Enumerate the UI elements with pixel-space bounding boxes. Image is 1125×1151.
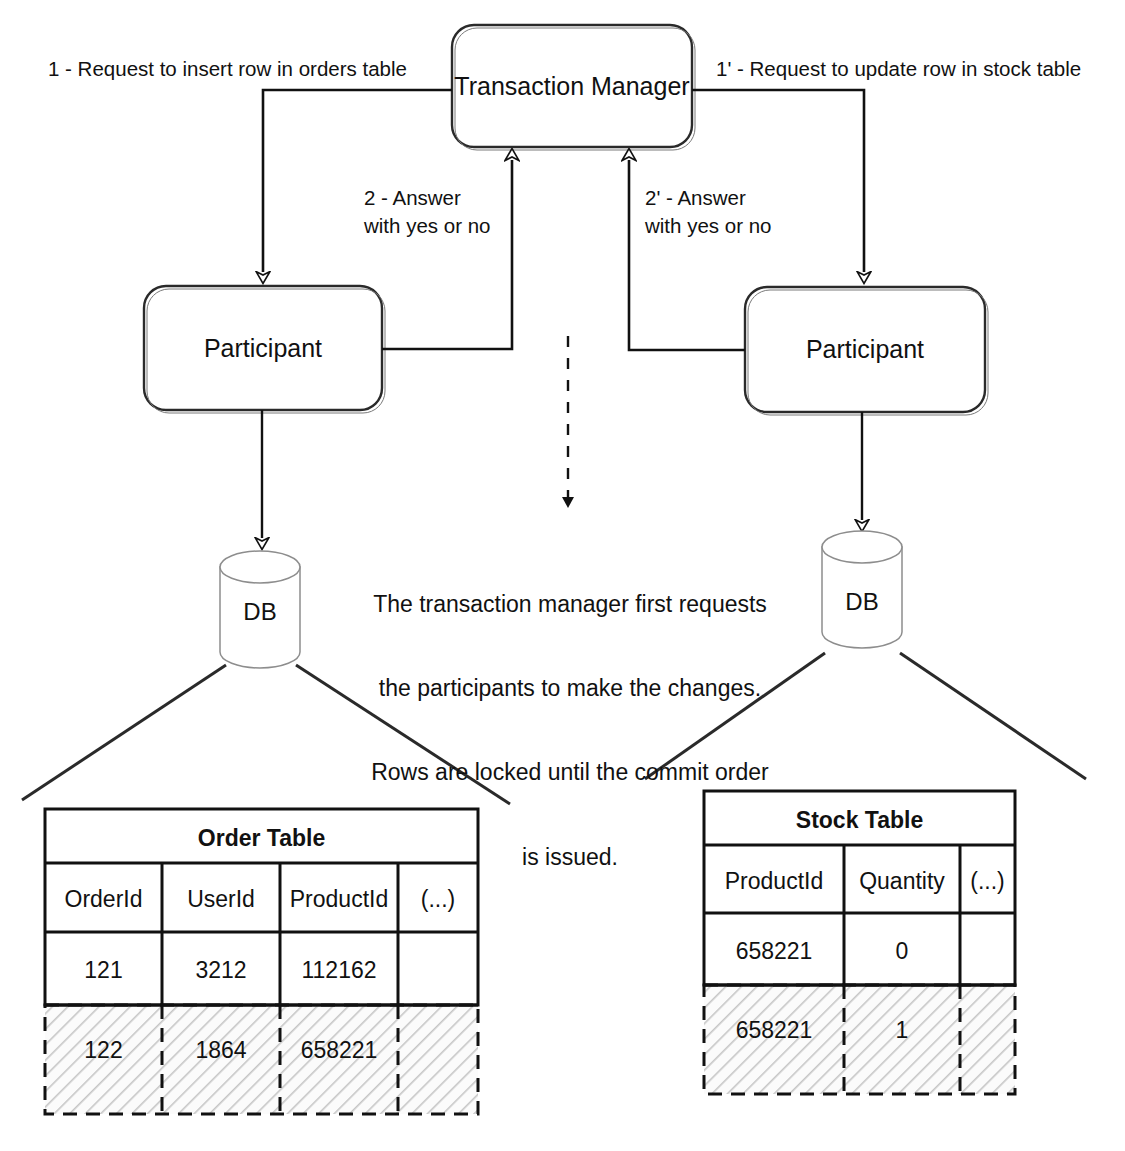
diagram-canvas: Transaction Manager Participant Particip… — [0, 0, 1125, 1151]
order-table-title: Order Table — [45, 824, 478, 852]
edge-label-answer-right-line2: with yes or no — [645, 213, 771, 238]
order-table-row2-userid: 1864 — [162, 1036, 280, 1064]
edge-label-answer-left-line2: with yes or no — [364, 213, 490, 238]
database-right-label: DB — [845, 587, 878, 616]
note-line-3: Rows are locked until the commit order — [360, 758, 780, 786]
stock-table-row1-productid: 658221 — [704, 937, 844, 965]
order-table-row1-orderid: 121 — [45, 956, 162, 984]
order-table-row1-productid: 112162 — [280, 956, 398, 984]
stock-table-row2-productid: 658221 — [704, 1016, 844, 1044]
order-table-row1-userid: 3212 — [162, 956, 280, 984]
order-table-header-productid: ProductId — [280, 885, 398, 913]
edge-request-left — [263, 90, 452, 272]
participant-left-label: Participant — [204, 333, 322, 364]
edge-label-answer-right-line1: 2' - Answer — [645, 185, 746, 210]
order-table-header-more: (...) — [398, 885, 478, 913]
transaction-manager-label: Transaction Manager — [454, 71, 689, 102]
order-table-row2-orderid: 122 — [45, 1036, 162, 1064]
edge-label-request-left: 1 - Request to insert row in orders tabl… — [48, 56, 407, 81]
database-left-label: DB — [243, 597, 276, 626]
stock-table-row1-quantity: 0 — [844, 937, 960, 965]
stock-table-title: Stock Table — [704, 806, 1015, 834]
stock-table-header-more: (...) — [960, 867, 1015, 895]
order-table-header-orderid: OrderId — [45, 885, 162, 913]
participant-right-label: Participant — [806, 334, 924, 365]
edge-label-answer-left-line1: 2 - Answer — [364, 185, 461, 210]
stock-table-row2-quantity: 1 — [844, 1016, 960, 1044]
order-table-header-userid: UserId — [162, 885, 280, 913]
note-line-2: the participants to make the changes. — [360, 674, 780, 702]
stock-table-header-quantity: Quantity — [844, 867, 960, 895]
stock-table-header-productid: ProductId — [704, 867, 844, 895]
edge-request-right — [692, 90, 864, 272]
order-table-row2-productid: 658221 — [280, 1036, 398, 1064]
note-line-1: The transaction manager first requests — [360, 590, 780, 618]
edge-label-request-right: 1' - Request to update row in stock tabl… — [716, 56, 1081, 81]
